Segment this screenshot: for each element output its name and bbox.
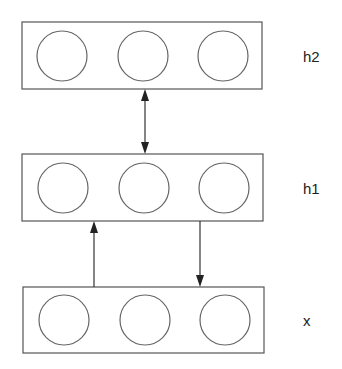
unit-h2-3 [198,31,248,81]
unit-h2-1 [37,31,87,81]
unit-h1-2 [119,163,169,213]
arrowhead-down-icon [141,142,149,154]
layer-h2: h2 [22,22,320,89]
arrowhead-up-icon [141,89,149,101]
layer-h2-label: h2 [303,48,320,65]
arrowhead-up-icon [90,221,98,233]
arrow-x-to-h1 [90,221,98,287]
layer-x-label: x [303,312,311,329]
arrowhead-down-icon [196,275,204,287]
unit-h1-1 [38,163,88,213]
layer-h1-label: h1 [303,180,320,197]
unit-x-1 [39,295,89,345]
unit-x-2 [120,295,170,345]
arrow-h1-to-x [196,221,204,287]
unit-x-3 [200,295,250,345]
layer-x: x [23,287,311,353]
bidirectional-arrow-h1-h2 [141,89,149,154]
layer-h1: h1 [22,154,320,221]
network-diagram: h2 h1 x [0,0,342,369]
unit-h2-2 [118,31,168,81]
unit-h1-3 [199,163,249,213]
